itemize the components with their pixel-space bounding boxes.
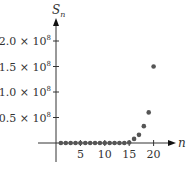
data-point xyxy=(137,133,142,138)
data-point xyxy=(78,141,83,146)
x-axis-label: n xyxy=(178,136,186,150)
data-point xyxy=(83,141,88,146)
y-tick-label: 1.0 × 108 xyxy=(0,85,51,99)
data-point xyxy=(88,141,93,146)
y-tick-label: 0.5 × 108 xyxy=(0,111,51,125)
x-axis-arrow-icon xyxy=(168,140,176,146)
data-point xyxy=(93,141,98,146)
y-tick-label: 2.0 × 108 xyxy=(0,34,51,48)
x-tick-label: 20 xyxy=(147,148,161,161)
data-points xyxy=(59,64,156,145)
y-axis-label: Sn xyxy=(52,3,65,19)
data-point xyxy=(146,110,151,115)
x-tick-label: 15 xyxy=(122,148,136,161)
y-axis-arrow-icon xyxy=(53,18,59,26)
data-point xyxy=(151,64,156,69)
data-point xyxy=(63,141,68,146)
data-point xyxy=(132,137,137,142)
data-point xyxy=(103,141,108,146)
data-point xyxy=(142,124,147,129)
scatter-chart: Snn51015200.5 × 1081.0 × 1081.5 × 1082.0… xyxy=(0,0,186,170)
data-point xyxy=(127,140,132,145)
data-point xyxy=(68,141,73,146)
data-point xyxy=(73,141,78,146)
data-point xyxy=(122,141,127,146)
data-point xyxy=(59,141,64,146)
data-point xyxy=(117,141,122,146)
data-point xyxy=(112,141,117,146)
y-tick-label: 1.5 × 108 xyxy=(0,60,51,74)
data-point xyxy=(98,141,103,146)
data-point xyxy=(107,141,112,146)
x-tick-label: 10 xyxy=(98,148,112,161)
axes: Snn51015200.5 × 1081.0 × 1081.5 × 1082.0… xyxy=(0,3,186,162)
x-tick-label: 5 xyxy=(77,148,84,161)
